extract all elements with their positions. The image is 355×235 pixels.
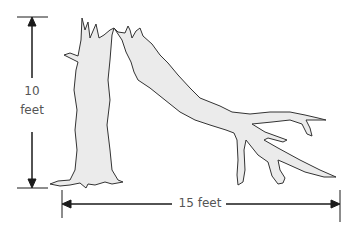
width-label: 15 feet xyxy=(176,196,224,211)
height-label: 10 feet xyxy=(14,84,50,118)
height-label-value: 10 xyxy=(14,84,50,99)
fallen-tree-top xyxy=(114,26,336,185)
height-label-unit: feet xyxy=(14,103,50,118)
tree-trunk xyxy=(50,18,123,188)
